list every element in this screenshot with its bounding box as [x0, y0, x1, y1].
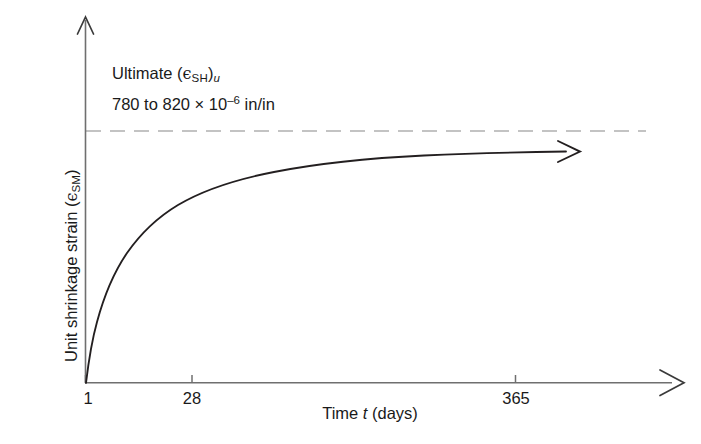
- x-tick-label-365: 365: [502, 389, 530, 407]
- epsilon-symbol-sm: ϵ: [62, 193, 81, 202]
- annotation-line-ultimate: Ultimate (ϵSH)u: [112, 64, 275, 85]
- shrinkage-curve-path: [86, 152, 566, 384]
- x-tick-label-1: 1: [83, 389, 92, 407]
- ultimate-shrinkage-annotation: Ultimate (ϵSH)u 780 to 820 × 10–6 in/in: [112, 64, 275, 122]
- y-axis-title-prefix: Unit shrinkage strain (: [62, 202, 80, 362]
- annotation-value-range: 780 to 820 × 10: [112, 95, 227, 113]
- x-axis-title: Time t (days): [322, 404, 418, 422]
- epsilon-subscript-sh: SH: [192, 72, 208, 84]
- y-axis-title-suffix: ): [62, 169, 80, 175]
- annotation-ultimate-prefix: Ultimate (: [112, 64, 183, 82]
- annotation-line-value: 780 to 820 × 10–6 in/in: [112, 94, 275, 113]
- epsilon-symbol-sh: ϵ: [183, 64, 192, 83]
- epsilon-subscript-sm: SM: [70, 175, 82, 193]
- x-tick-label-28: 28: [183, 389, 201, 407]
- x-axis-title-suffix: (days): [367, 404, 417, 422]
- x-axis-title-prefix: Time: [322, 404, 363, 422]
- chart-plot-area: [0, 0, 701, 444]
- annotation-units: in/in: [240, 95, 275, 113]
- ultimate-subscript-u: u: [213, 72, 219, 84]
- y-axis-title: Unit shrinkage strain (ϵSM): [62, 169, 83, 362]
- shrinkage-strain-chart: Ultimate (ϵSH)u 780 to 820 × 10–6 in/in …: [0, 0, 701, 444]
- annotation-exponent: –6: [227, 94, 240, 106]
